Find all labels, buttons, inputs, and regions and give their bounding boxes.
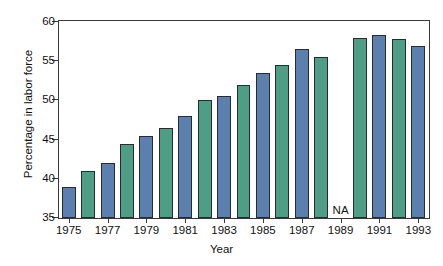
x-axis-tick-label: 1975 <box>56 224 82 236</box>
plot-inner: 3540455055601975197719791981198319851987… <box>59 21 429 218</box>
bar-chart: Percentage in labor force Year 354045505… <box>0 0 443 266</box>
bar-1983[interactable] <box>217 96 231 218</box>
y-axis-tick-label: 35 <box>42 211 55 223</box>
x-axis-tick <box>108 218 109 223</box>
bar-1980[interactable] <box>159 128 173 218</box>
bar-1977[interactable] <box>101 163 115 218</box>
bar-1981[interactable] <box>178 116 192 218</box>
bar-1986[interactable] <box>275 65 289 218</box>
y-axis-tick-label: 50 <box>42 93 55 105</box>
bar-1984[interactable] <box>237 85 251 218</box>
x-axis-tick-label: 1985 <box>250 224 276 236</box>
bar-1975[interactable] <box>62 187 76 218</box>
bar-1985[interactable] <box>256 73 270 218</box>
x-axis-tick-label: 1991 <box>367 224 393 236</box>
y-axis-tick-label: 55 <box>42 54 55 66</box>
bar-1987[interactable] <box>295 49 309 218</box>
bar-1990[interactable] <box>353 38 367 218</box>
x-axis-tick <box>341 218 342 223</box>
x-axis-tick-label: 1989 <box>328 224 354 236</box>
bar-1993[interactable] <box>411 46 425 218</box>
bar-1988[interactable] <box>314 57 328 218</box>
plot-area: 3540455055601975197719791981198319851987… <box>58 20 430 219</box>
x-axis-tick-label: 1977 <box>95 224 121 236</box>
bar-1976[interactable] <box>81 171 95 218</box>
bar-1991[interactable] <box>372 35 386 218</box>
x-axis-tick <box>379 218 380 223</box>
x-axis-tick <box>263 218 264 223</box>
x-axis-tick-label: 1993 <box>405 224 431 236</box>
bar-1979[interactable] <box>139 136 153 218</box>
bar-1992[interactable] <box>392 39 406 218</box>
x-axis-title: Year <box>0 243 443 255</box>
x-axis-tick <box>224 218 225 223</box>
x-axis-tick-label: 1983 <box>211 224 237 236</box>
x-axis-tick <box>302 218 303 223</box>
y-axis-title: Percentage in labor force <box>22 24 34 204</box>
y-axis-tick-label: 40 <box>42 172 55 184</box>
y-axis-tick-label: 45 <box>42 133 55 145</box>
x-axis-tick <box>69 218 70 223</box>
x-axis-tick-label: 1987 <box>289 224 315 236</box>
x-axis-tick <box>185 218 186 223</box>
y-axis-tick-label: 60 <box>42 15 55 27</box>
bar-1978[interactable] <box>120 144 134 218</box>
x-axis-tick <box>418 218 419 223</box>
bar-1982[interactable] <box>198 100 212 218</box>
x-axis-tick-label: 1979 <box>134 224 160 236</box>
bar-missing-label-1989: NA <box>333 204 349 216</box>
x-axis-tick-label: 1981 <box>172 224 198 236</box>
x-axis-tick <box>146 218 147 223</box>
